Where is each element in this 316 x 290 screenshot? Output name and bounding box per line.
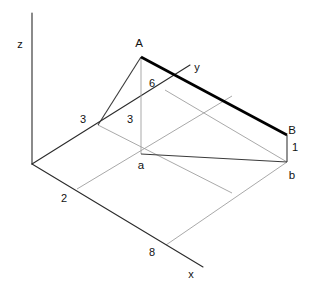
tick-label-3-left: 3 xyxy=(80,113,86,125)
axis-label-z: z xyxy=(17,38,23,50)
edge-A-to-yaxis xyxy=(98,57,141,125)
grid-line-x8-parallel-y xyxy=(166,162,287,245)
figure-edges xyxy=(98,57,287,162)
axes-group xyxy=(32,13,203,267)
tick-label-2: 2 xyxy=(61,192,67,204)
point-label-b: b xyxy=(289,169,295,181)
tick-label-6: 6 xyxy=(149,77,155,89)
grid-line-x2-parallel-y xyxy=(77,96,232,189)
coordinate-diagram-svg: 3 3 6 2 8 1 z y x A B a b xyxy=(0,0,316,290)
axis-label-y: y xyxy=(194,61,200,73)
axis-x-line xyxy=(32,164,203,267)
edge-A-to-B-highlight xyxy=(141,57,287,135)
diagram-canvas: 3 3 6 2 8 1 z y x A B a b xyxy=(0,0,316,290)
tick-label-8: 8 xyxy=(149,246,155,258)
ground-grid xyxy=(77,90,287,245)
axis-y-line xyxy=(32,65,190,164)
tick-label-1: 1 xyxy=(292,141,298,153)
grid-line-y3-parallel-x xyxy=(98,125,232,193)
tick-label-3-right: 3 xyxy=(127,113,133,125)
point-label-A: A xyxy=(135,37,143,49)
axis-label-x: x xyxy=(188,268,194,280)
tick-label-group: 3 3 6 2 8 1 xyxy=(61,77,298,258)
point-label-group: A B a b xyxy=(135,37,296,181)
point-label-a: a xyxy=(138,159,145,171)
point-label-B: B xyxy=(288,124,296,136)
